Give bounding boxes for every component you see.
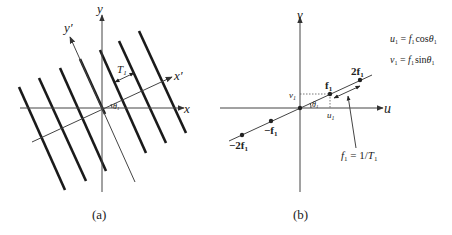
period-label: T1 [117, 63, 127, 77]
equation-u1: u1 = f1cosθ1 [390, 33, 437, 45]
spacing-arrow [334, 86, 360, 98]
v1-label: v1 [289, 90, 296, 101]
figure: y y′ x′ x T1 θ1 (a) v u f1 2f1 −f1 −2f1 … [0, 0, 452, 235]
annotation-f1-equals: f1 = 1/T1 [341, 149, 378, 163]
point-f1-label: f1 [325, 79, 333, 93]
panel-a [19, 15, 186, 192]
x-axis-label: x [183, 101, 190, 116]
u-axis-label: u [384, 101, 391, 116]
annotation-leader [348, 96, 356, 148]
u1-label: u1 [327, 110, 335, 121]
angle-label-a: θ1 [113, 102, 119, 111]
v-axis-label: v [297, 7, 303, 22]
y-axis-label: y [95, 1, 103, 16]
point-neg-f1-label: −f1 [264, 124, 278, 138]
point-neg-f1 [269, 119, 273, 123]
equation-v1: v1 = f1sinθ1 [390, 54, 434, 66]
caption-a: (a) [92, 207, 106, 222]
point-neg-2f1-label: −2f1 [229, 139, 248, 153]
point-2f1-label: 2f1 [351, 65, 364, 79]
xprime-axis-label: x′ [173, 68, 183, 83]
angle-label-b: θ1 [312, 100, 318, 109]
point-neg-2f1 [240, 133, 244, 137]
caption-b: (b) [293, 207, 308, 222]
yprime-axis-label: y′ [62, 20, 73, 35]
origin-point [298, 106, 302, 110]
panel-b [220, 17, 383, 192]
